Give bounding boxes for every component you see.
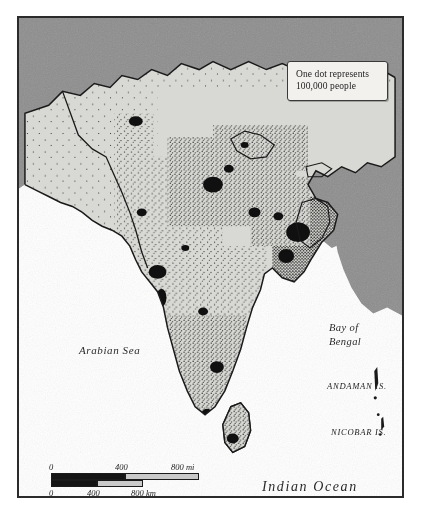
legend-box: One dot represents 100,000 people bbox=[287, 61, 388, 101]
scale-mi-tick-400: 400 bbox=[115, 462, 128, 472]
legend-line-1: One dot represents bbox=[296, 68, 380, 80]
legend-line-2: 100,000 people bbox=[296, 80, 380, 92]
dots-upper-ganges bbox=[213, 125, 308, 171]
scale-km-tick-800: 800 km bbox=[131, 488, 156, 498]
label-bay-of-bengal: Bay of Bengal bbox=[329, 321, 361, 349]
scale-km-segment-light bbox=[97, 480, 143, 487]
map-frame: One dot represents 100,000 people Arabia… bbox=[17, 16, 404, 498]
scale-bar-kilometers: 0 400 800 km bbox=[33, 479, 213, 498]
scale-ticks-kilometers: 0 400 800 km bbox=[33, 488, 213, 498]
scale-bar-group: 0 400 800 mi 0 400 800 km bbox=[33, 462, 213, 498]
scale-mi-tick-800: 800 mi bbox=[171, 462, 194, 472]
scale-km-segment-dark bbox=[51, 480, 97, 487]
label-nicobar-islands: NICOBAR IS. bbox=[331, 427, 386, 437]
scale-km-tick-0: 0 bbox=[49, 488, 53, 498]
scale-mi-tick-0: 0 bbox=[49, 462, 53, 472]
label-bay-of-bengal-line2: Bengal bbox=[329, 335, 361, 349]
dots-indus-valley bbox=[114, 113, 154, 232]
scale-ticks-miles: 0 400 800 mi bbox=[33, 462, 213, 473]
label-andaman-islands: ANDAMAN IS. bbox=[327, 381, 387, 391]
label-bay-of-bengal-line1: Bay of bbox=[329, 321, 361, 335]
scale-km-tick-400: 400 bbox=[87, 488, 100, 498]
label-arabian-sea: Arabian Sea bbox=[79, 344, 140, 356]
label-indian-ocean: Indian Ocean bbox=[262, 479, 358, 495]
